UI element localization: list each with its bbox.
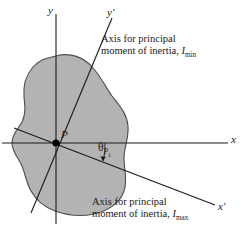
annotation-max-line2: moment of inertia, Imax [92, 208, 188, 222]
annotation-min-prefix: moment of inertia, [101, 45, 181, 56]
y-prime-axis-label: y′ [107, 6, 114, 19]
annotation-max-axis: Axis for principal moment of inertia, Im… [92, 196, 188, 222]
annotation-min-line2: moment of inertia, Imin [101, 45, 196, 59]
theta-p1-angle-label: θP1 [98, 141, 111, 159]
annotation-min-line1: Axis for principal [101, 33, 196, 45]
x-prime-axis-label: x′ [218, 200, 225, 213]
principal-axes-diagram: y y′ x x′ P θP1 Axis for principal momen… [0, 0, 244, 236]
cross-section-area-shape [12, 55, 128, 216]
annotation-max-subscript: max [176, 214, 188, 222]
annotation-min-subscript: min [185, 51, 196, 59]
annotation-max-prefix: moment of inertia, [92, 208, 172, 219]
annotation-max-line1: Axis for principal [92, 196, 188, 208]
annotation-min-axis: Axis for principal moment of inertia, Im… [101, 33, 196, 59]
y-axis-label: y [48, 4, 53, 17]
point-p-label: P [61, 128, 68, 141]
x-axis-label: x [231, 133, 236, 146]
point-p-marker [52, 139, 59, 146]
theta-subscript-index: 1 [108, 152, 111, 158]
